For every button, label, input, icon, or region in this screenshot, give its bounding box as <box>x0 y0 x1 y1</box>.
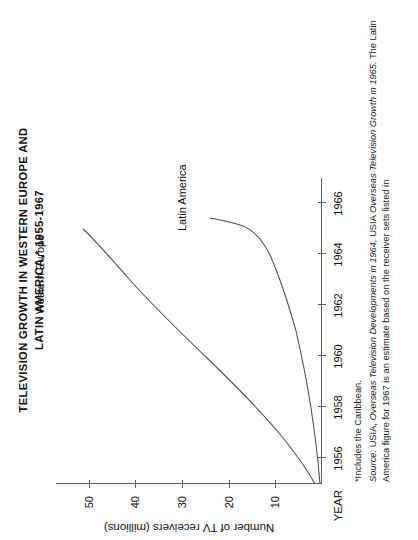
y-tick-label-50: 50 <box>83 496 95 508</box>
chart-page: TELEVISION GROWTH IN WESTERN EUROPE AND … <box>0 0 418 540</box>
footnote-source: Source: USIA, Overseas Television Develo… <box>367 12 392 482</box>
x-tick-label-1956: 1956 <box>332 446 344 470</box>
series-line-latin-america <box>210 218 320 484</box>
footnote-source-title-1: Overseas Television Developments in 1964… <box>368 239 378 420</box>
plot-area: Western Europe Latin America 1956 1958 1… <box>56 178 322 484</box>
footnote-source-title-2: Overseas Television Growth in 1965. <box>368 62 378 214</box>
x-tick-label-1964: 1964 <box>332 242 344 266</box>
y-tick-label-40: 40 <box>129 496 141 508</box>
series-line-western-europe <box>83 229 315 484</box>
x-axis-line <box>321 178 322 484</box>
y-tick-10 <box>275 480 276 488</box>
rotated-figure-stage: TELEVISION GROWTH IN WESTERN EUROPE AND … <box>0 0 418 540</box>
y-tick-30 <box>182 480 183 488</box>
footnote-source-label: Source: <box>368 450 378 482</box>
y-tick-20 <box>229 480 230 488</box>
x-tick-label-1962: 1962 <box>332 293 344 317</box>
page-title-line-1: TELEVISION GROWTH IN WESTERN EUROPE AND <box>16 0 32 540</box>
y-tick-50 <box>89 480 90 488</box>
y-tick-label-20: 20 <box>223 496 235 508</box>
x-tick-1960 <box>318 356 326 357</box>
footnotes: *Includes the Caribbean. Source: USIA, O… <box>352 12 392 482</box>
x-tick-1956 <box>318 458 326 459</box>
x-tick-1966 <box>318 203 326 204</box>
x-tick-label-1958: 1958 <box>332 395 344 419</box>
footnote-source-agency: USIA, <box>368 421 378 450</box>
series-label-western-europe: Western Europe <box>34 235 46 314</box>
footnote-source-middle: USIA <box>368 213 378 239</box>
y-axis-line <box>56 483 322 484</box>
x-tick-label-1960: 1960 <box>332 344 344 368</box>
y-axis-title: Number of TV receivers (millions) <box>104 522 274 534</box>
x-tick-1962 <box>318 305 326 306</box>
series-label-latin-america: Latin America <box>176 164 188 231</box>
y-tick-label-30: 30 <box>176 496 188 508</box>
x-axis-title: YEAR <box>332 490 344 521</box>
series-curves <box>56 178 322 484</box>
y-tick-label-10: 10 <box>269 496 281 508</box>
x-tick-label-1966: 1966 <box>332 191 344 215</box>
footnote-asterisk: *Includes the Caribbean. <box>352 12 364 482</box>
x-tick-1958 <box>318 407 326 408</box>
x-tick-1964 <box>318 254 326 255</box>
y-tick-40 <box>135 480 136 488</box>
